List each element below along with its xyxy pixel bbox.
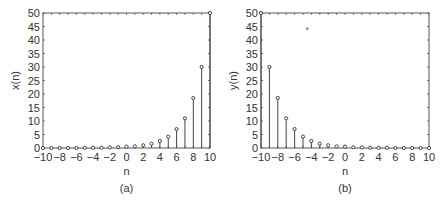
stem-marker (175, 128, 178, 131)
stem-marker (369, 146, 372, 149)
stem-marker (276, 96, 279, 99)
y-axis-label: y(n) (227, 71, 239, 90)
stem-marker (133, 145, 136, 148)
stem-marker (125, 145, 128, 148)
stem-marker (301, 135, 304, 138)
x-tick-label: 4 (157, 151, 163, 163)
y-axis-label: x(n) (9, 71, 21, 90)
stem-marker (411, 146, 414, 149)
stem-marker (41, 146, 44, 149)
y-tick-label: 20 (28, 88, 40, 100)
x-tick-label: −6 (288, 151, 301, 163)
stem-marker (360, 146, 363, 149)
plot-panel-a: −10−8−6−4−2024681005101520253035404550nx… (9, 7, 216, 194)
y-tick-label: 40 (28, 34, 40, 46)
stem-marker (108, 146, 111, 149)
stem-marker (343, 145, 346, 148)
stem-marker (327, 144, 330, 147)
y-tick-label: 50 (246, 7, 258, 19)
y-tick-label: 15 (246, 102, 258, 114)
y-tick-label: 15 (28, 102, 40, 114)
y-tick-label: 5 (34, 129, 40, 141)
y-tick-label: 0 (34, 142, 40, 154)
x-tick-label: −8 (53, 151, 66, 163)
y-tick-label: 50 (28, 7, 40, 19)
x-tick-label: −4 (305, 151, 318, 163)
panel-caption: (b) (338, 182, 351, 194)
stem-marker (183, 117, 186, 120)
y-tick-label: 25 (246, 75, 258, 87)
x-tick-label: −2 (322, 151, 335, 163)
y-tick-label: 35 (246, 48, 258, 60)
x-tick-label: 2 (359, 151, 365, 163)
y-tick-label: 10 (28, 115, 40, 127)
y-tick-label: 45 (28, 21, 40, 33)
annotation-mark: * (305, 25, 309, 35)
x-tick-label: 6 (392, 151, 398, 163)
stem-marker (58, 146, 61, 149)
stem-marker (352, 146, 355, 149)
stem-marker (377, 146, 380, 149)
stem-marker (192, 96, 195, 99)
y-tick-label: 30 (246, 61, 258, 73)
stem-marker (335, 145, 338, 148)
figure: −10−8−6−4−2024681005101520253035404550nx… (0, 0, 443, 205)
x-tick-label: 8 (409, 151, 415, 163)
stem-marker (150, 142, 153, 145)
stem-marker (268, 65, 271, 68)
x-tick-label: 0 (123, 151, 129, 163)
x-tick-label: −8 (272, 151, 285, 163)
stem-marker (259, 11, 262, 14)
stem-marker (117, 146, 120, 149)
y-tick-label: 20 (246, 88, 258, 100)
x-tick-label: 8 (190, 151, 196, 163)
plot-panel-b: −10−8−6−4−2024681005101520253035404550*n… (227, 7, 435, 194)
stem-marker (142, 144, 145, 147)
panel-caption: (a) (120, 182, 133, 194)
y-tick-label: 45 (246, 21, 258, 33)
y-tick-label: 25 (28, 75, 40, 87)
y-tick-label: 5 (252, 129, 258, 141)
stem-marker (419, 146, 422, 149)
x-tick-label: 4 (376, 151, 382, 163)
stem-marker (100, 146, 103, 149)
stem-marker (200, 65, 203, 68)
y-tick-label: 0 (252, 142, 258, 154)
y-tick-label: 10 (246, 115, 258, 127)
stem-marker (318, 142, 321, 145)
stem-marker (92, 146, 95, 149)
stem-marker (402, 146, 405, 149)
y-tick-label: 30 (28, 61, 40, 73)
stem-marker (385, 146, 388, 149)
stem-marker (167, 135, 170, 138)
x-tick-label: −2 (104, 151, 117, 163)
x-tick-label: 6 (174, 151, 180, 163)
stem-marker (50, 146, 53, 149)
x-tick-label: −6 (70, 151, 83, 163)
stem-marker (158, 139, 161, 142)
y-tick-label: 35 (28, 48, 40, 60)
stem-marker (208, 11, 211, 14)
stem-marker (394, 146, 397, 149)
y-tick-label: 40 (246, 34, 258, 46)
stem-marker (285, 117, 288, 120)
x-tick-label: 0 (342, 151, 348, 163)
x-tick-label: 2 (140, 151, 146, 163)
stem-marker (83, 146, 86, 149)
x-axis-label: n (123, 165, 129, 177)
stem-marker (66, 146, 69, 149)
stem-marker (427, 146, 430, 149)
x-tick-label: −4 (87, 151, 100, 163)
x-tick-label: 10 (423, 151, 435, 163)
stem-marker (310, 139, 313, 142)
x-tick-label: 10 (204, 151, 216, 163)
stem-marker (75, 146, 78, 149)
x-axis-label: n (342, 165, 348, 177)
stem-marker (293, 128, 296, 131)
